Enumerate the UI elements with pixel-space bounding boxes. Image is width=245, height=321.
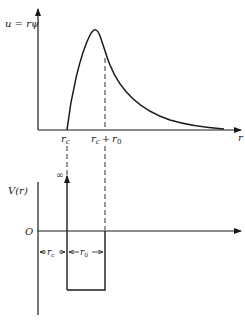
top-x-axis-label: r (238, 132, 244, 143)
wavefunction-plot: u = rψ r rc rc+r0 (5, 9, 244, 146)
top-y-axis-label: u = rψ (5, 18, 39, 29)
wavefunction-curve (67, 30, 224, 130)
tick-label-rc: rc (61, 133, 70, 146)
origin-label: O (25, 226, 33, 237)
infinity-label: ∞ (56, 170, 64, 180)
diagram-canvas: u = rψ r rc rc+r0 V(r) O ∞ rc r0 (0, 0, 245, 321)
potential-plot: V(r) O ∞ rc r0 (8, 170, 241, 315)
square-well (67, 231, 105, 290)
tick-label-rc-plus-r0: rc+r0 (91, 133, 121, 146)
potential-axis-label: V(r) (8, 185, 28, 196)
